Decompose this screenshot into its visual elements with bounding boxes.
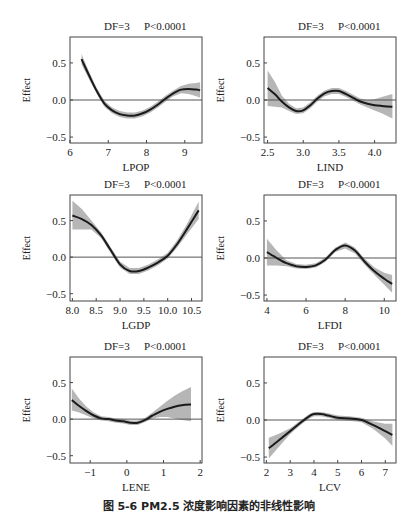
y-tick-label: 0.5 xyxy=(246,377,260,389)
y-axis-label: Effect xyxy=(215,236,226,260)
confidence-band xyxy=(82,54,201,119)
x-tick-label: 8.5 xyxy=(89,304,103,316)
y-tick-label: −0.5 xyxy=(46,288,66,300)
x-tick-label: 3.0 xyxy=(296,146,310,158)
chart-svg: DF=3P<0.0001−0.50.00.5234567LCVEffect xyxy=(194,320,403,483)
confidence-band xyxy=(268,70,393,118)
plot-frame xyxy=(264,195,396,301)
chart-panel-lpop: DF=3P<0.0001−0.50.00.56789LPOPEffect xyxy=(0,0,209,163)
x-axis-label: LENE xyxy=(122,481,150,493)
df-label: DF=3 xyxy=(104,20,130,32)
x-tick-label: 10.0 xyxy=(158,304,178,316)
y-tick-label: 0.5 xyxy=(246,57,260,69)
x-tick-label: 2.5 xyxy=(261,146,275,158)
y-tick-label: 0.5 xyxy=(246,215,260,227)
y-tick-label: 0.5 xyxy=(52,215,66,227)
x-tick-label: 4 xyxy=(311,466,317,478)
y-axis-label: Effect xyxy=(21,236,32,260)
plot-frame xyxy=(70,195,202,301)
y-tick-label: 0.5 xyxy=(52,377,66,389)
x-tick-label: 9 xyxy=(182,146,188,158)
y-tick-label: −0.5 xyxy=(240,451,260,463)
x-tick-label: 6 xyxy=(67,146,73,158)
chart-panel-lcv: DF=3P<0.0001−0.50.00.5234567LCVEffect xyxy=(194,320,403,483)
df-label: DF=3 xyxy=(298,20,324,32)
y-tick-label: 0.0 xyxy=(52,251,66,263)
x-tick-label: 4.0 xyxy=(368,146,382,158)
x-tick-label: 6 xyxy=(359,466,365,478)
confidence-band xyxy=(267,239,392,293)
p-value-label: P<0.0001 xyxy=(338,340,381,352)
x-tick-label: 3 xyxy=(287,466,293,478)
x-tick-label: 0 xyxy=(124,466,130,478)
y-tick-label: 0.5 xyxy=(52,57,66,69)
x-tick-label: 9.0 xyxy=(113,304,127,316)
y-tick-label: −0.5 xyxy=(240,289,260,301)
y-tick-label: 0.0 xyxy=(246,414,260,426)
p-value-label: P<0.0001 xyxy=(338,178,381,190)
df-label: DF=3 xyxy=(298,178,324,190)
x-tick-label: 7 xyxy=(383,466,389,478)
p-value-label: P<0.0001 xyxy=(144,340,187,352)
x-tick-label: 2 xyxy=(264,466,270,478)
y-tick-label: −0.5 xyxy=(46,450,66,462)
y-tick-label: −0.5 xyxy=(240,131,260,143)
df-label: DF=3 xyxy=(104,178,130,190)
y-tick-label: 0.0 xyxy=(246,94,260,106)
chart-panel-lene: DF=3P<0.0001−0.50.00.5−1012LENEEffect xyxy=(0,320,209,483)
confidence-band xyxy=(72,201,198,274)
x-tick-label: 10 xyxy=(379,304,391,316)
chart-svg: DF=3P<0.0001−0.50.00.52.53.03.54.0LINDEf… xyxy=(194,0,403,163)
y-axis-label: Effect xyxy=(21,78,32,102)
chart-svg: DF=3P<0.0001−0.50.00.58.08.59.09.510.010… xyxy=(0,158,209,321)
chart-panel-lfdi: DF=3P<0.0001−0.50.00.546810LFDIEffect xyxy=(194,158,403,321)
x-tick-label: 3.5 xyxy=(332,146,346,158)
p-value-label: P<0.0001 xyxy=(144,178,187,190)
x-tick-label: 5 xyxy=(335,466,341,478)
x-tick-label: 8 xyxy=(342,304,348,316)
chart-svg: DF=3P<0.0001−0.50.00.546810LFDIEffect xyxy=(194,158,403,321)
y-tick-label: 0.0 xyxy=(52,94,66,106)
y-tick-label: 0.0 xyxy=(246,252,260,264)
p-value-label: P<0.0001 xyxy=(144,20,187,32)
x-tick-label: 1 xyxy=(161,466,167,478)
df-label: DF=3 xyxy=(104,340,130,352)
confidence-band xyxy=(269,412,393,459)
chart-panel-lgdp: DF=3P<0.0001−0.50.00.58.08.59.09.510.010… xyxy=(0,158,209,321)
df-label: DF=3 xyxy=(298,340,324,352)
chart-panel-lind: DF=3P<0.0001−0.50.00.52.53.03.54.0LINDEf… xyxy=(194,0,403,163)
x-tick-label: 7 xyxy=(106,146,112,158)
y-axis-label: Effect xyxy=(215,78,226,102)
y-axis-label: Effect xyxy=(215,398,226,422)
chart-svg: DF=3P<0.0001−0.50.00.5−1012LENEEffect xyxy=(0,320,209,483)
x-tick-label: 8.0 xyxy=(66,304,80,316)
chart-svg: DF=3P<0.0001−0.50.00.56789LPOPEffect xyxy=(0,0,209,163)
x-axis-label: LCV xyxy=(319,481,341,493)
effect-curve xyxy=(72,210,198,271)
x-tick-label: 8 xyxy=(144,146,150,158)
x-tick-label: −1 xyxy=(84,466,96,478)
x-tick-label: 9.5 xyxy=(137,304,151,316)
y-tick-label: −0.5 xyxy=(46,131,66,143)
figure-caption: 图 5-6 PM2.5 浓度影响因素的非线性影响 xyxy=(0,497,418,512)
x-tick-label: 6 xyxy=(303,304,309,316)
plot-frame xyxy=(264,357,396,463)
y-tick-label: 0.0 xyxy=(52,413,66,425)
y-axis-label: Effect xyxy=(21,398,32,422)
p-value-label: P<0.0001 xyxy=(338,20,381,32)
x-tick-label: 4 xyxy=(264,304,270,316)
